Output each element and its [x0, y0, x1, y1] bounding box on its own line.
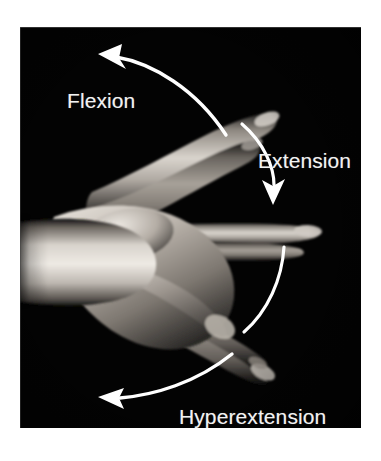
hyperextension-arrow-icon — [98, 354, 232, 409]
range-of-motion-arc — [244, 247, 284, 332]
annotation-overlay — [20, 27, 361, 428]
figure-root: Flexion Extension Hyperextension — [0, 0, 381, 461]
label-extension: Extension — [258, 149, 351, 173]
label-flexion: Flexion — [67, 89, 135, 113]
label-hyperextension: Hyperextension — [179, 405, 326, 428]
photo-panel: Flexion Extension Hyperextension — [20, 27, 361, 428]
